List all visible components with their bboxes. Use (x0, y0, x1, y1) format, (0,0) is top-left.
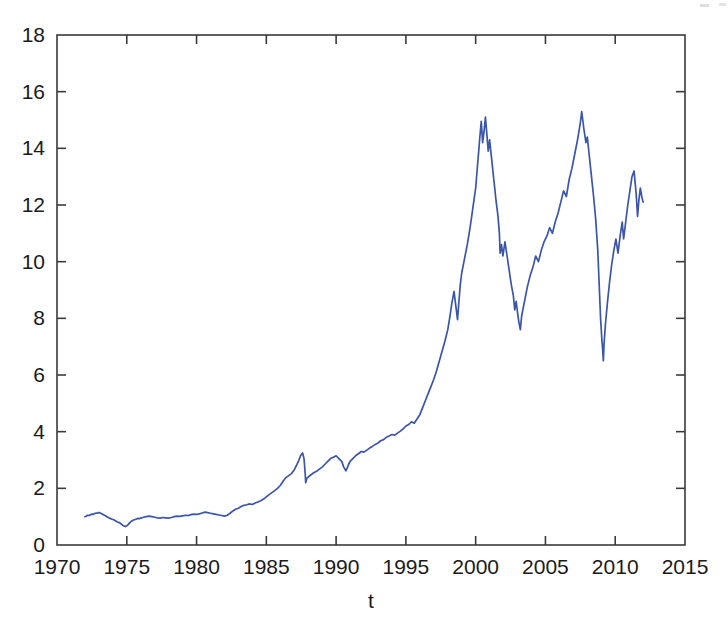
x-tick-label: 2000 (452, 555, 499, 578)
y-tick-label: 18 (22, 23, 45, 46)
x-tick-label: 1975 (103, 555, 150, 578)
line-chart: 1970197519801985199019952000200520102015… (0, 0, 728, 630)
x-tick-label: 2010 (592, 555, 639, 578)
axes-background (57, 35, 685, 545)
x-tick-label: 1990 (313, 555, 360, 578)
y-tick-label: 0 (33, 533, 45, 556)
y-tick-label: 14 (22, 136, 46, 159)
y-tick-label: 2 (33, 476, 45, 499)
x-tick-label: 1980 (173, 555, 220, 578)
x-tick-label: 2015 (662, 555, 709, 578)
x-tick-label: 1985 (243, 555, 290, 578)
y-tick-label: 10 (22, 250, 45, 273)
y-tick-label: 6 (33, 363, 45, 386)
x-tick-label: 1995 (383, 555, 430, 578)
figure-container: 1970197519801985199019952000200520102015… (0, 0, 728, 630)
x-axis-label: t (368, 589, 374, 612)
y-tick-label: 4 (33, 420, 45, 443)
y-tick-label: 8 (33, 306, 45, 329)
x-tick-label: 1970 (34, 555, 81, 578)
y-tick-label: 16 (22, 80, 45, 103)
x-tick-label: 2005 (522, 555, 569, 578)
y-tick-label: 12 (22, 193, 45, 216)
plot-area (57, 35, 685, 545)
